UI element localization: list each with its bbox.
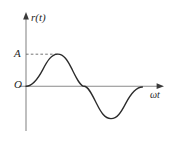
y-axis-arrowhead-icon [23,12,29,19]
y-axis-label: r(t) [31,12,46,23]
sine-wave-figure: r(t) A O ωt [0,0,176,142]
plot-area [0,0,176,142]
amplitude-label: A [14,48,21,59]
origin-label: O [14,79,22,90]
x-axis-label: ωt [150,90,160,100]
